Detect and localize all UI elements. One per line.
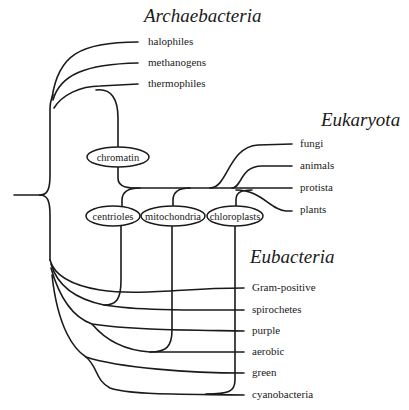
leaf-animals: animals [300, 159, 334, 171]
node-chromatin: chromatin [87, 147, 149, 167]
node-chloroplasts-label: chloroplasts [210, 211, 261, 222]
leaf-halophiles: halophiles [148, 35, 193, 47]
leaf-methanogens: methanogens [148, 56, 206, 68]
group-title-eubacteria: Eubacteria [249, 246, 334, 267]
leaf-plants: plants [300, 203, 326, 215]
node-mitochondria-label: mitochondria [145, 211, 201, 222]
leaf-thermophiles: thermophiles [148, 77, 205, 89]
group-title-eukaryota: Eukaryota [320, 109, 400, 130]
node-chromatin-label: chromatin [97, 152, 140, 163]
group-title-archaebacteria: Archaebacteria [142, 5, 261, 26]
node-centrioles-label: centrioles [93, 211, 134, 222]
node-mitochondria: mitochondria [141, 206, 205, 226]
leaf-fungi: fungi [300, 137, 323, 149]
phylogenetic-tree-diagram: Archaebacteria Eukaryota Eubacteria halo… [0, 0, 409, 410]
node-centrioles: centrioles [86, 206, 140, 226]
leaf-gram-positive: Gram-positive [252, 281, 316, 293]
leaf-green: green [252, 366, 277, 378]
leaf-protista: protista [300, 181, 333, 193]
leaf-cyanobacteria: cyanobacteria [252, 388, 313, 400]
node-chloroplasts: chloroplasts [207, 206, 263, 226]
leaf-spirochetes: spirochetes [252, 303, 301, 315]
leaf-aerobic: aerobic [252, 345, 284, 357]
leaf-purple: purple [252, 324, 280, 336]
